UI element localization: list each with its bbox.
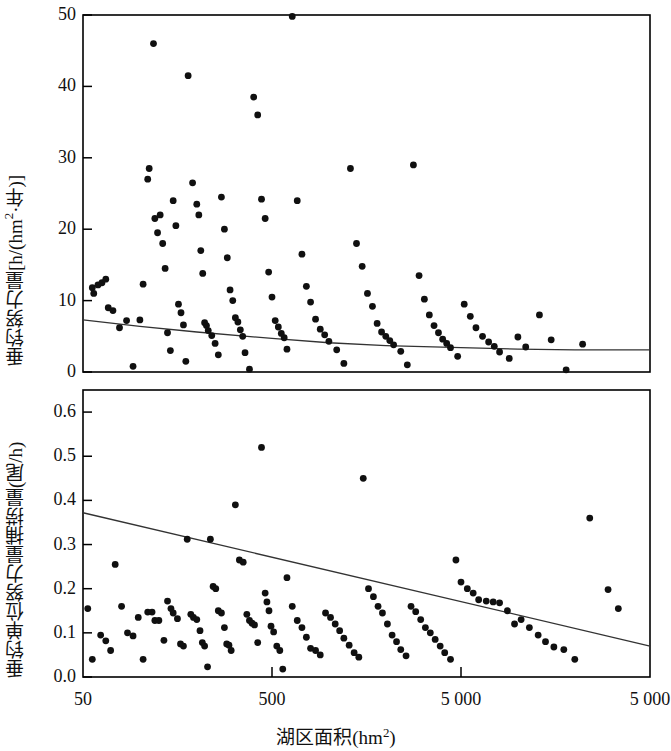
data-point — [197, 247, 204, 254]
data-point — [246, 617, 253, 624]
data-point — [95, 281, 102, 288]
data-point — [164, 598, 171, 605]
data-point — [397, 348, 404, 355]
data-point — [223, 640, 230, 647]
data-point — [370, 593, 377, 600]
data-point — [579, 341, 586, 348]
data-point — [182, 358, 189, 365]
data-point — [458, 579, 465, 586]
data-point — [422, 624, 429, 631]
data-point — [506, 355, 513, 362]
data-point — [118, 603, 125, 610]
data-point — [140, 656, 147, 663]
data-point — [351, 649, 358, 656]
bottom-panel-y-tick-label: 0.5 — [20, 446, 76, 464]
data-point — [215, 607, 222, 614]
data-point — [432, 636, 439, 643]
data-point — [180, 321, 187, 328]
data-point — [360, 475, 367, 482]
data-point — [325, 338, 332, 345]
data-point — [162, 265, 169, 272]
data-point — [365, 585, 372, 592]
data-point — [303, 283, 310, 290]
data-point — [353, 240, 360, 247]
data-point — [203, 322, 210, 329]
data-point — [473, 324, 480, 331]
data-point — [97, 632, 104, 639]
data-point — [250, 94, 257, 101]
x-title-superscript: 2 — [383, 725, 389, 740]
data-point — [210, 583, 217, 590]
data-point — [174, 615, 181, 622]
data-point — [382, 333, 389, 340]
top-panel-y-tick-label: 40 — [20, 76, 76, 94]
data-point — [258, 196, 265, 203]
data-point — [454, 353, 461, 360]
data-point — [249, 620, 256, 627]
data-point — [237, 326, 244, 333]
bottom-panel-y-tick-label: 0.4 — [20, 490, 76, 508]
data-point — [453, 557, 460, 564]
data-point — [470, 590, 477, 597]
data-point — [204, 663, 211, 670]
data-point — [135, 614, 142, 621]
data-point — [273, 643, 280, 650]
data-point — [164, 329, 171, 336]
data-point — [189, 179, 196, 186]
data-point — [435, 329, 442, 336]
data-point — [464, 585, 471, 592]
data-point — [322, 610, 329, 617]
data-point — [317, 326, 324, 333]
data-point — [167, 347, 174, 354]
data-point — [242, 349, 249, 356]
top-panel-y-tick-label: 30 — [20, 148, 76, 166]
data-point — [190, 614, 197, 621]
data-point — [232, 501, 239, 508]
data-point — [522, 344, 529, 351]
data-point — [175, 301, 182, 308]
data-point — [254, 112, 261, 119]
bottom-panel-scatter-series — [84, 444, 621, 672]
data-point — [170, 610, 177, 617]
data-point — [403, 652, 410, 659]
top-y-title-superscript: 2 — [1, 213, 16, 219]
data-point — [421, 296, 428, 303]
data-point — [272, 317, 279, 324]
data-point — [312, 316, 319, 323]
x-axis-title: 湖区面积(hm2) — [186, 722, 486, 749]
data-point — [327, 614, 334, 621]
data-point — [208, 332, 215, 339]
data-point — [89, 656, 96, 663]
bottom-panel-y-tick-label: 0.0 — [20, 667, 76, 685]
data-point — [542, 638, 549, 645]
data-point — [439, 336, 446, 343]
data-point — [243, 611, 250, 618]
data-point — [212, 585, 219, 592]
data-point — [289, 13, 296, 20]
data-point — [437, 643, 444, 650]
figure-container: 垂钓努力量[h/(hm2·年)] 垂钓单位努力量捕捞量(尾/h) 湖区面积(hm… — [0, 0, 671, 751]
data-point — [84, 605, 91, 612]
data-point — [490, 599, 497, 606]
data-point — [254, 639, 261, 646]
data-point — [258, 444, 265, 451]
data-point — [536, 311, 543, 318]
data-point — [496, 349, 503, 356]
data-point — [461, 301, 468, 308]
data-point — [369, 303, 376, 310]
data-point — [393, 638, 400, 645]
data-point — [384, 621, 391, 628]
data-point — [605, 586, 612, 593]
x-tick-label: 5 000 — [590, 690, 671, 708]
data-point — [102, 276, 109, 283]
data-point — [412, 608, 419, 615]
data-point — [307, 299, 314, 306]
data-point — [410, 162, 417, 169]
data-point — [89, 284, 96, 291]
data-point — [226, 642, 233, 649]
data-point — [116, 324, 123, 331]
data-point — [229, 297, 236, 304]
data-point — [234, 319, 241, 326]
data-point — [475, 596, 482, 603]
data-point — [340, 360, 347, 367]
